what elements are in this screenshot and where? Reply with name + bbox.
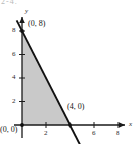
vertex-dot-x-intercept (68, 123, 72, 127)
x-tick-label-2: 2 (44, 130, 48, 137)
x-tick-label-6: 6 (92, 130, 96, 137)
graph-figure: 2-4. 8 6 4 2 2 6 8 x y (0, 8 (0, 0, 138, 144)
vertex-label-y-intercept: (0, 8) (28, 20, 45, 28)
vertex-dot-y-intercept (20, 29, 24, 33)
y-tick-label-8: 8 (12, 27, 16, 34)
coordinate-plot (0, 0, 138, 144)
y-axis-arrowhead (19, 17, 25, 23)
x-axis-arrowhead (119, 122, 125, 128)
vertex-label-x-intercept: (4, 0) (67, 103, 84, 111)
x-tick-label-8: 8 (116, 130, 120, 137)
y-tick-label-4: 4 (12, 74, 16, 81)
y-tick-label-2: 2 (12, 98, 16, 105)
x-axis-label: x (129, 121, 132, 128)
vertex-label-origin: (0, 0) (0, 126, 17, 134)
vertex-dot-origin (20, 123, 24, 127)
y-axis-label: y (25, 8, 28, 15)
y-tick-label-6: 6 (12, 51, 16, 58)
